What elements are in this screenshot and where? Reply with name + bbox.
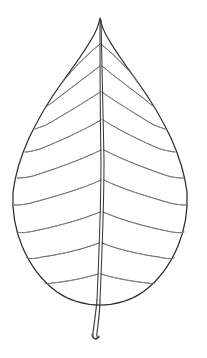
leaf-illustration-figure: Leaf outline drawing single broadleaf wi…	[0, 0, 207, 358]
leaf-drawing-canvas	[0, 0, 207, 358]
